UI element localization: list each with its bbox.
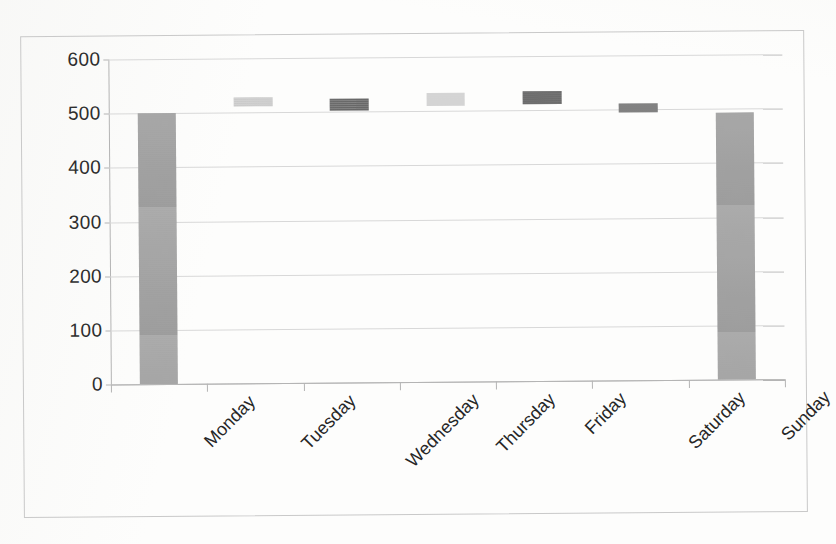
x-axis-label-tuesday: Tuesday — [298, 391, 361, 454]
gridline-300 — [110, 217, 784, 223]
y-axis-label-400: 400 — [68, 157, 101, 179]
bar-saturday[interactable] — [619, 103, 658, 113]
x-axis-tick-2 — [303, 383, 304, 391]
bar-friday[interactable] — [523, 91, 562, 104]
bar-thursday[interactable] — [426, 93, 465, 106]
bar-sunday[interactable] — [715, 112, 756, 379]
x-axis-label-wednesday: Wednesday — [402, 390, 483, 472]
bar-tuesday[interactable] — [234, 97, 273, 106]
x-axis-label-monday: Monday — [200, 391, 260, 451]
y-axis-label-300: 300 — [69, 211, 102, 233]
y-axis-tick-200 — [105, 276, 110, 277]
scanned-page: 0100200300400500600 MondayTuesdayWednesd… — [0, 0, 836, 544]
y-axis-label-600: 600 — [67, 49, 100, 71]
chart-skew-wrapper: 0100200300400500600 MondayTuesdayWednesd… — [0, 0, 836, 544]
y-axis-labels: 0100200300400500600 — [38, 60, 103, 385]
x-axis-tick-5 — [592, 381, 593, 389]
y-axis-tick-500 — [104, 114, 109, 115]
x-axis-labels: MondayTuesdayWednesdayThursdayFridaySatu… — [111, 387, 786, 492]
x-axis-tick-1 — [207, 384, 208, 392]
y-axis-label-500: 500 — [68, 103, 101, 125]
y-axis-tick-400 — [104, 168, 109, 169]
x-axis-label-friday: Friday — [581, 388, 631, 438]
x-axis-tick-7 — [785, 379, 786, 387]
x-axis-tick-6 — [689, 380, 690, 388]
gridline-500 — [109, 108, 783, 114]
x-axis-tick-4 — [496, 381, 497, 389]
bar-monday[interactable] — [138, 113, 179, 384]
y-axis-label-200: 200 — [69, 265, 102, 287]
x-axis-label-saturday: Saturday — [684, 388, 750, 454]
bar-wednesday[interactable] — [330, 98, 369, 110]
x-axis-tick-0 — [111, 384, 112, 392]
gridline-100 — [110, 325, 784, 331]
y-axis-tick-100 — [105, 330, 110, 331]
y-axis-tick-300 — [105, 222, 110, 223]
gridline-200 — [110, 271, 784, 277]
plot-area — [108, 54, 785, 384]
gridline-400 — [109, 162, 783, 168]
y-axis-label-100: 100 — [69, 319, 102, 341]
x-axis-tick-3 — [400, 382, 401, 390]
x-axis-label-thursday: Thursday — [492, 389, 560, 457]
y-axis-label-0: 0 — [92, 373, 103, 395]
y-axis-tick-600 — [103, 59, 108, 60]
